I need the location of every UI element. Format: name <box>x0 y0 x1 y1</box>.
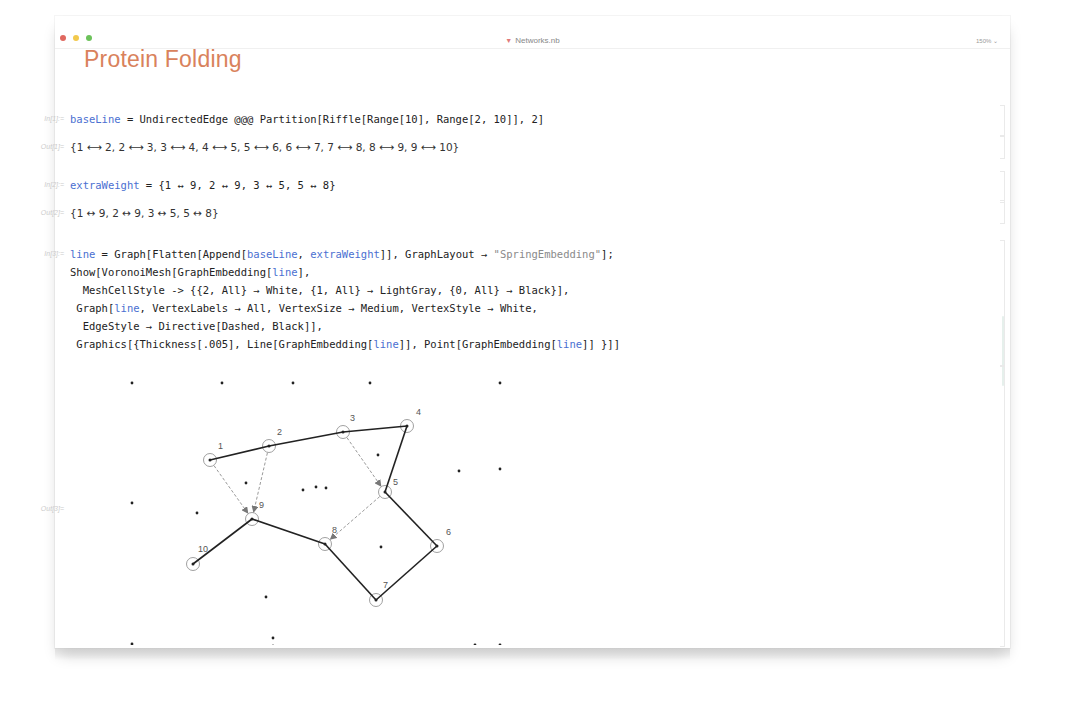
code-token: = Graph[Flatten[Append[ <box>95 248 247 260</box>
cell-bracket[interactable] <box>1000 171 1005 203</box>
code-token: , <box>298 248 311 260</box>
output-cell[interactable]: Out[1]={1 ⟷ 2, 2 ⟷ 3, 3 ⟷ 4, 4 ⟷ 5, 5 ⟷ … <box>70 138 459 156</box>
symbol-token: baseLine <box>70 113 121 125</box>
backbone-edge <box>343 426 407 432</box>
zoom-dropdown[interactable]: 150% ⌄ <box>976 37 998 44</box>
cell-label: In[3]:= <box>30 250 64 257</box>
string-token: "SpringEmbedding" <box>494 248 601 260</box>
code-token: ]], GraphLayout → <box>380 248 494 260</box>
cell-bracket[interactable] <box>1000 200 1005 224</box>
vertex-label: 3 <box>350 413 355 423</box>
vertex-point <box>342 431 345 434</box>
code-line[interactable]: MeshCellStyle -> {{2, All} → White, {1, … <box>70 281 620 299</box>
symbol-token: line <box>114 302 139 314</box>
voronoi-point <box>245 482 248 485</box>
voronoi-point <box>474 644 477 645</box>
cell-bracket[interactable] <box>1000 105 1005 137</box>
code-line[interactable]: Graph[line, VertexLabels → All, VertexSi… <box>70 299 620 317</box>
code-token: Show[VoronoiMesh[GraphEmbedding[ <box>70 266 272 278</box>
vertex-label: 9 <box>259 500 264 510</box>
voronoi-point <box>131 382 134 385</box>
backbone-edge <box>385 492 437 546</box>
notebook-title[interactable]: Protein Folding <box>84 46 242 73</box>
voronoi-point <box>292 382 295 385</box>
code-token: , VertexLabels → All, VertexSize → Mediu… <box>140 302 538 314</box>
voronoi-point <box>458 470 461 473</box>
output-text: {1 ⟷ 2, 2 ⟷ 3, 3 ⟷ 4, 4 ⟷ 5, 5 ⟷ 6, 6 ⟷ … <box>70 138 459 156</box>
code-line[interactable]: baseLine = UndirectedEdge @@@ Partition[… <box>70 110 544 128</box>
input-cell[interactable]: In[3]:=line = Graph[Flatten[Append[baseL… <box>70 245 620 353</box>
vertex-label: 7 <box>383 580 388 590</box>
vertex-point <box>192 563 195 566</box>
voronoi-point <box>499 382 502 385</box>
dashed-edge <box>214 466 248 514</box>
code-token: EdgeStyle → Directive[Dashed, Black]], <box>70 320 323 332</box>
backbone-edge <box>325 544 376 600</box>
cell-bracket[interactable] <box>1000 240 1005 367</box>
vertex-label: 1 <box>218 441 223 451</box>
cell-bracket[interactable] <box>1000 365 1005 647</box>
voronoi-point <box>302 489 305 492</box>
code-token: ], <box>298 266 311 278</box>
symbol-token: line <box>70 248 95 260</box>
backbone-edge <box>252 519 325 544</box>
vertex-label: 2 <box>277 427 282 437</box>
code-line[interactable]: extraWeight = {1 ↔ 9, 2 ↔ 9, 3 ↔ 5, 5 ↔ … <box>70 176 336 194</box>
voronoi-point <box>380 546 383 549</box>
symbol-token: line <box>373 338 398 350</box>
voronoi-point <box>325 487 328 490</box>
code-line[interactable]: EdgeStyle → Directive[Dashed, Black]], <box>70 317 620 335</box>
voronoi-points <box>131 382 502 645</box>
cell-label: In[2]:= <box>30 181 64 188</box>
symbol-token: baseLine <box>247 248 298 260</box>
backbone-line <box>192 425 439 602</box>
code-token: MeshCellStyle -> {{2, All} → White, {1, … <box>70 284 569 296</box>
vertex-label: 6 <box>446 527 451 537</box>
code-token: Graphics[{Thickness[.005], Line[GraphEmb… <box>70 338 373 350</box>
symbol-token: line <box>557 338 582 350</box>
symbol-token: line <box>272 266 297 278</box>
cell-bracket[interactable] <box>1000 135 1005 159</box>
vertex-point <box>251 518 254 521</box>
symbol-token: extraWeight <box>70 179 140 191</box>
voronoi-point <box>315 486 318 489</box>
code-line[interactable]: line = Graph[Flatten[Append[baseLine, ex… <box>70 245 620 263</box>
code-token: Graph[ <box>70 302 114 314</box>
title-bar: ▼Networks.nb 150% ⌄ <box>55 16 1010 46</box>
vertex-label: 5 <box>393 477 398 487</box>
voronoi-point <box>131 643 134 645</box>
voronoi-point <box>131 502 134 505</box>
code-token: ]; <box>601 248 614 260</box>
vertex-point <box>209 459 212 462</box>
vertex-label: 8 <box>332 525 337 535</box>
code-token: = {1 ↔ 9, 2 ↔ 9, 3 ↔ 5, 5 ↔ 8} <box>140 179 336 191</box>
symbol-token: extraWeight <box>310 248 380 260</box>
cell-label: Out[3]= <box>30 505 64 512</box>
code-line[interactable]: Graphics[{Thickness[.005], Line[GraphEmb… <box>70 335 620 353</box>
notebook-file-icon: ▼ <box>505 37 512 44</box>
vertex-labels: 12345678910 <box>198 407 451 590</box>
output-cell[interactable]: Out[2]={1 ↔ 9, 2 ↔ 9, 3 ↔ 5, 5 ↔ 8} <box>70 204 219 222</box>
vertex-point <box>384 491 387 494</box>
output-text: {1 ↔ 9, 2 ↔ 9, 3 ↔ 5, 5 ↔ 8} <box>70 204 219 222</box>
cell-label: Out[1]= <box>30 143 64 150</box>
cell-label: Out[2]= <box>30 209 64 216</box>
window-title: ▼Networks.nb <box>55 36 1010 45</box>
code-token: ]], Point[GraphEmbedding[ <box>399 338 557 350</box>
input-cell[interactable]: In[2]:=extraWeight = {1 ↔ 9, 2 ↔ 9, 3 ↔ … <box>70 176 336 194</box>
voronoi-point <box>369 382 372 385</box>
voronoi-point <box>499 644 502 645</box>
graphics-output[interactable]: 12345678910 <box>70 365 510 645</box>
backbone-edge <box>193 519 252 564</box>
dashed-edge <box>347 438 381 487</box>
code-line[interactable]: Show[VoronoiMesh[GraphEmbedding[line], <box>70 263 620 281</box>
vertex-point <box>268 445 271 448</box>
input-cell[interactable]: In[1]:=baseLine = UndirectedEdge @@@ Par… <box>70 110 544 128</box>
vertex-label: 10 <box>198 544 208 554</box>
window-shadow <box>55 648 1010 660</box>
voronoi-point <box>196 512 199 515</box>
zoom-level: 150% <box>976 38 991 44</box>
voronoi-point <box>265 596 268 599</box>
vertex-point <box>375 599 378 602</box>
voronoi-point <box>377 454 380 457</box>
